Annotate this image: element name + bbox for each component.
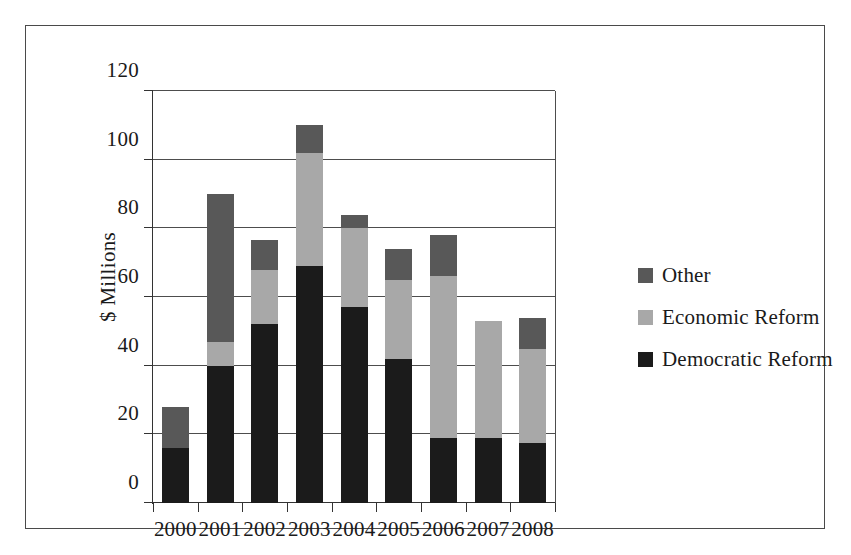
bar-segment-2003-economic-reform xyxy=(296,153,323,266)
y-tick-mark-40 xyxy=(144,365,153,366)
x-tick-label-2000: 2000 xyxy=(154,519,197,540)
bar-2008 xyxy=(519,91,546,503)
bar-segment-2003-other xyxy=(296,125,323,152)
bar-segment-2007-democratic-reform xyxy=(475,438,502,503)
bar-segment-2002-democratic-reform xyxy=(251,324,278,503)
bar-segment-2008-other xyxy=(519,318,546,349)
x-tick-mark-1 xyxy=(198,503,199,512)
x-tick-mark-4 xyxy=(332,503,333,512)
x-tick-label-2002: 2002 xyxy=(243,519,286,540)
legend-item-democratic-reform[interactable]: Democratic Reform xyxy=(638,338,838,380)
x-tick-mark-8 xyxy=(510,503,511,512)
x-tick-mark-6 xyxy=(421,503,422,512)
bar-segment-2004-economic-reform xyxy=(341,228,368,307)
x-tick-mark-5 xyxy=(376,503,377,512)
bar-segment-2000-democratic-reform xyxy=(162,448,189,503)
chart-legend: OtherEconomic ReformDemocratic Reform xyxy=(638,254,838,380)
y-tick-label-80: 80 xyxy=(117,197,139,218)
bar-segment-2001-other xyxy=(207,194,234,342)
x-tick-label-2005: 2005 xyxy=(377,519,420,540)
plot-right-edge xyxy=(555,91,556,503)
bar-segment-2005-economic-reform xyxy=(385,280,412,359)
bar-segment-2008-economic-reform xyxy=(519,349,546,443)
bar-segment-2008-democratic-reform xyxy=(519,443,546,503)
x-tick-label-2003: 2003 xyxy=(288,519,331,540)
legend-swatch-icon xyxy=(638,268,653,283)
y-tick-mark-0 xyxy=(144,502,153,503)
x-tick-mark-end xyxy=(555,503,556,512)
bar-2002 xyxy=(251,91,278,503)
bar-segment-2002-economic-reform xyxy=(251,270,278,325)
bar-segment-2002-other xyxy=(251,240,278,269)
bar-2001 xyxy=(207,91,234,503)
y-axis-line xyxy=(152,90,153,504)
y-tick-label-100: 100 xyxy=(107,128,139,149)
y-tick-mark-100 xyxy=(144,159,153,160)
bar-segment-2001-economic-reform xyxy=(207,342,234,366)
y-tick-label-60: 60 xyxy=(117,266,139,287)
bar-2006 xyxy=(430,91,457,503)
bar-2005 xyxy=(385,91,412,503)
bar-segment-2007-economic-reform xyxy=(475,321,502,438)
x-tick-mark-7 xyxy=(466,503,467,512)
bar-2007 xyxy=(475,91,502,503)
x-tick-label-2007: 2007 xyxy=(467,519,510,540)
legend-item-other[interactable]: Other xyxy=(638,254,838,296)
bar-segment-2006-other xyxy=(430,235,457,276)
legend-item-label: Economic Reform xyxy=(662,307,820,328)
y-tick-label-120: 120 xyxy=(107,60,139,81)
x-tick-label-2004: 2004 xyxy=(333,519,376,540)
bar-segment-2001-democratic-reform xyxy=(207,366,234,503)
legend-swatch-icon xyxy=(638,352,653,367)
bar-2003 xyxy=(296,91,323,503)
bar-segment-2004-other xyxy=(341,215,368,229)
bar-segment-2006-democratic-reform xyxy=(430,438,457,503)
legend-item-label: Other xyxy=(662,265,711,286)
y-tick-label-20: 20 xyxy=(117,403,139,424)
x-tick-label-2008: 2008 xyxy=(511,519,554,540)
x-tick-label-2006: 2006 xyxy=(422,519,465,540)
y-tick-mark-120 xyxy=(144,90,153,91)
bar-segment-2003-democratic-reform xyxy=(296,266,323,503)
x-tick-mark-3 xyxy=(287,503,288,512)
bar-2004 xyxy=(341,91,368,503)
plot-area: 020406080100120 200020012002200320042005… xyxy=(153,91,555,503)
bar-2000 xyxy=(162,91,189,503)
legend-item-economic-reform[interactable]: Economic Reform xyxy=(638,296,838,338)
legend-swatch-icon xyxy=(638,310,653,325)
chart-figure: $ Millions 020406080100120 2000200120022… xyxy=(0,0,851,555)
y-tick-mark-20 xyxy=(144,433,153,434)
bar-segment-2006-economic-reform xyxy=(430,276,457,437)
y-tick-label-40: 40 xyxy=(117,334,139,355)
bar-segment-2004-democratic-reform xyxy=(341,307,368,503)
bar-segment-2005-democratic-reform xyxy=(385,359,412,503)
legend-item-label: Democratic Reform xyxy=(662,349,833,370)
bar-segment-2000-other xyxy=(162,407,189,448)
x-tick-label-2001: 2001 xyxy=(199,519,242,540)
bar-segment-2005-other xyxy=(385,249,412,280)
y-tick-mark-80 xyxy=(144,227,153,228)
y-tick-mark-60 xyxy=(144,296,153,297)
x-tick-mark-0 xyxy=(153,503,154,512)
y-tick-label-0: 0 xyxy=(128,472,139,493)
x-tick-mark-2 xyxy=(242,503,243,512)
figure-frame: $ Millions 020406080100120 2000200120022… xyxy=(25,25,825,529)
